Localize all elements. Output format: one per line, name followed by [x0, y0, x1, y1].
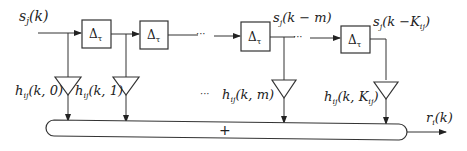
gain-label-0: hij(k, 0): [15, 83, 63, 100]
summer-plus-sign: +: [219, 122, 231, 138]
gain-label-K: hij(k, Kij): [324, 89, 378, 106]
input-signal-label: sj(k): [19, 8, 48, 26]
last-tap-label: sj(k −Kij): [373, 14, 430, 31]
ellipsis-dots-2: ···: [293, 31, 303, 42]
tapped-delay-line-diagram: sj(k) ··· ··· Δτ Δτ Δτ Δτ sj(k − m) sj(k…: [0, 0, 467, 151]
gain-triangle-m: [272, 80, 296, 123]
gain-label-1: hij(k, 1): [75, 83, 123, 100]
delay-box-4: Δτ: [341, 26, 370, 53]
delay-box-1: Δτ: [82, 20, 111, 48]
gain-ellipsis: ···: [200, 88, 210, 99]
output-signal-label: ri(k): [426, 110, 453, 127]
mid-tap-label: sj(k − m): [273, 10, 332, 27]
summing-bar: +: [46, 120, 407, 140]
delay-box-3: Δτ: [241, 22, 270, 51]
ellipsis-dots-1: ···: [196, 28, 206, 39]
delay-box-2: Δτ: [140, 21, 168, 49]
gain-label-m: hij(k, m): [222, 87, 274, 104]
